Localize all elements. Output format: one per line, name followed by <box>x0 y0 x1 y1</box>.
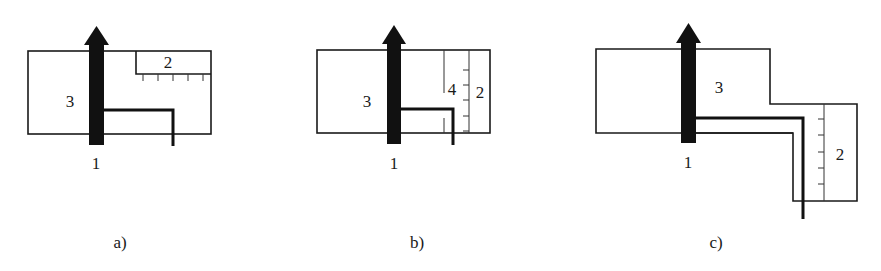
label-body: 3 <box>66 92 75 111</box>
channel-line <box>398 109 453 145</box>
caption-c: c) <box>709 233 722 252</box>
body-outline <box>317 50 490 133</box>
arrow-icon <box>84 26 109 145</box>
label-scale: 2 <box>836 145 845 164</box>
caption-a: a) <box>113 233 126 252</box>
label-arrow: 1 <box>92 154 101 173</box>
diagram-canvas: 2 3 1 a) 3 4 2 1 b) <box>0 0 881 271</box>
label-arrow: 1 <box>684 153 693 172</box>
body-outline <box>28 51 211 134</box>
channel-line <box>100 110 173 146</box>
scale-ticks <box>818 119 824 184</box>
panel-a: 2 3 1 a) <box>28 26 211 252</box>
arrow-icon <box>382 25 406 144</box>
arrow-icon <box>676 23 701 143</box>
label-scale: 2 <box>476 83 485 102</box>
scale-ticks <box>143 74 203 81</box>
caption-b: b) <box>410 233 424 252</box>
label-body: 3 <box>715 78 724 97</box>
label-body: 3 <box>363 92 372 111</box>
label-arrow: 1 <box>390 154 399 173</box>
scale-ticks <box>463 70 469 131</box>
scale-box <box>136 51 211 74</box>
panel-b: 3 4 2 1 b) <box>317 25 490 252</box>
panel-c: 3 2 1 c) <box>596 23 857 252</box>
label-scale: 2 <box>164 53 173 72</box>
label-inner: 4 <box>448 80 457 99</box>
body-outline <box>596 49 857 201</box>
